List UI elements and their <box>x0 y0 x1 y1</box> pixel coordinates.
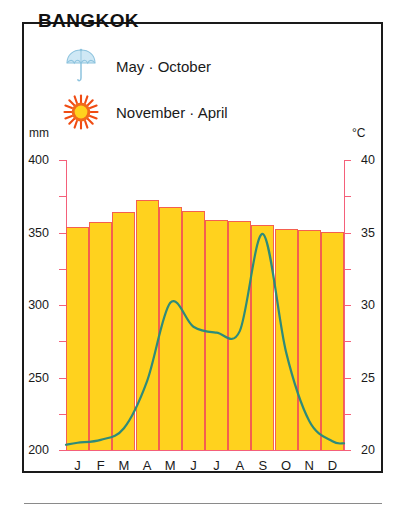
chart-plot-area: 050100150200250300350400 051015202530354… <box>66 160 344 450</box>
month-label: N <box>305 458 314 473</box>
sun-icon <box>60 91 102 133</box>
umbrella-icon <box>60 45 102 87</box>
axis-tick-left: 350 <box>59 196 66 197</box>
axis-tick-left: 50 <box>59 414 66 415</box>
bottom-divider <box>24 503 382 504</box>
month-label: A <box>235 458 244 473</box>
axis-tick-left: 250 <box>59 269 66 270</box>
axis-tick-right: 5 <box>344 414 351 415</box>
axis-tick-label-left: 250 <box>28 371 49 385</box>
legend-label-dry-season: November · April <box>116 104 228 121</box>
month-label: D <box>328 458 337 473</box>
axis-tick-right: 40 <box>344 160 351 161</box>
month-label: M <box>165 458 176 473</box>
axis-unit-right: °C <box>352 126 365 140</box>
axis-tick-label-right: 30 <box>361 298 375 312</box>
month-label: F <box>97 458 105 473</box>
axis-unit-left: mm <box>29 126 49 140</box>
axis-tick-label-left: 400 <box>28 153 49 167</box>
axis-tick-left: 150 <box>59 341 66 342</box>
axis-tick-left: 100 <box>59 378 66 379</box>
month-label: J <box>74 458 81 473</box>
axis-tick-right: 0 <box>344 450 351 451</box>
axis-tick-label-left: 200 <box>28 443 49 457</box>
axis-tick-label-right: 35 <box>361 226 375 240</box>
axis-tick-right: 25 <box>344 269 351 270</box>
axis-tick-label-right: 25 <box>361 371 375 385</box>
month-label: J <box>190 458 197 473</box>
axis-tick-left: 400 <box>59 160 66 161</box>
axis-tick-right: 35 <box>344 196 351 197</box>
month-label: O <box>281 458 291 473</box>
axis-tick-right: 15 <box>344 341 351 342</box>
axis-tick-label-right: 20 <box>361 443 375 457</box>
legend-item-dry-season: November · April <box>60 91 228 133</box>
axis-tick-left: 0 <box>59 450 66 451</box>
axis-tick-label-left: 300 <box>28 298 49 312</box>
month-label: J <box>213 458 220 473</box>
axis-tick-left: 200 <box>59 305 66 306</box>
legend-item-wet-season: May · October <box>60 45 211 87</box>
month-label: A <box>143 458 152 473</box>
axis-tick-right: 30 <box>344 233 351 234</box>
month-label: M <box>118 458 129 473</box>
axis-baseline <box>66 450 344 451</box>
axis-tick-label-left: 350 <box>28 226 49 240</box>
month-label: S <box>259 458 268 473</box>
temperature-line <box>66 160 344 450</box>
axis-tick-right: 10 <box>344 378 351 379</box>
axis-tick-left: 300 <box>59 233 66 234</box>
axis-tick-right: 20 <box>344 305 351 306</box>
page-title: BANGKOK <box>38 10 139 32</box>
axis-tick-label-right: 40 <box>361 153 375 167</box>
legend-label-wet-season: May · October <box>116 58 211 75</box>
